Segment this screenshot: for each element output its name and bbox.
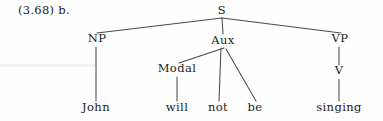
tree-branch-aux-to-not bbox=[219, 48, 221, 101]
node-np: NP bbox=[88, 31, 107, 45]
node-aux: Aux bbox=[210, 33, 235, 47]
node-vp: VP bbox=[331, 31, 349, 45]
node-modal: Modal bbox=[158, 61, 197, 75]
figure-canvas: (3.68) b. SNPAuxVPModalVJohnwillnotbesin… bbox=[0, 0, 383, 121]
syntax-tree: SNPAuxVPModalVJohnwillnotbesinging bbox=[0, 0, 383, 121]
tree-branch-s-to-aux bbox=[222, 18, 223, 34]
terminal-not: not bbox=[208, 100, 228, 114]
terminal-will: will bbox=[166, 100, 188, 114]
terminal-be: be bbox=[248, 100, 263, 114]
node-v: V bbox=[334, 63, 344, 77]
tree-branch-aux-to-be bbox=[226, 49, 256, 101]
tree-branch-s-to-np bbox=[97, 18, 222, 33]
terminal-singing: singing bbox=[316, 100, 362, 114]
tree-branch-s-to-vp bbox=[222, 18, 341, 33]
tree-edge-layer bbox=[96, 18, 341, 101]
node-s: S bbox=[218, 3, 226, 17]
tree-node-layer: SNPAuxVPModalVJohnwillnotbesinging bbox=[81, 3, 362, 114]
terminal-john: John bbox=[81, 100, 110, 114]
